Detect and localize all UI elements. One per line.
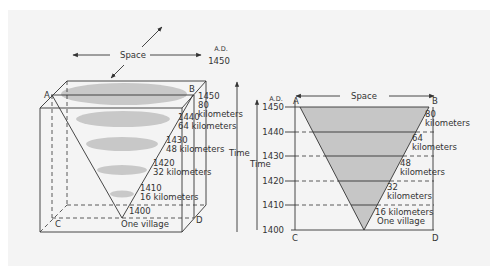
corner-a: A <box>44 90 50 100</box>
distance-48: 48 kilometers <box>166 144 225 154</box>
corner-c: C <box>55 219 61 229</box>
distance-64: 64 kilometers <box>178 121 237 131</box>
ring-1420 <box>97 165 147 175</box>
ring-1430 <box>86 137 158 151</box>
one-village-label: One village <box>377 216 425 226</box>
corner-c: C <box>292 233 298 243</box>
year-1410: 1410 <box>262 200 284 210</box>
one-village-label: One village <box>121 219 169 229</box>
year-1420: 1420 <box>262 176 284 186</box>
era-label: A.D. <box>214 45 227 53</box>
left-3d-diagram: Space A.D. 1450 A B C D <box>40 27 250 232</box>
distance-32-unit: kilometers <box>387 191 432 201</box>
ring-1440 <box>76 111 170 127</box>
ring-1410 <box>110 191 134 198</box>
year-1400: 1400 <box>129 206 151 216</box>
year-1400: 1400 <box>262 225 284 235</box>
distance-48-unit: kilometers <box>400 167 445 177</box>
time-label: Time <box>228 148 250 158</box>
top-year-label: 1450 <box>208 56 230 66</box>
corner-b: B <box>189 84 195 94</box>
distance-16: 16 kilometers <box>140 192 199 202</box>
year-1450: 1450 <box>262 102 284 112</box>
corner-b: B <box>432 96 438 106</box>
corner-d: D <box>432 233 439 243</box>
ring-1450 <box>61 83 187 105</box>
corner-a: A <box>293 96 299 106</box>
diffusion-diagram: Space A.D. 1450 A B C D <box>0 0 498 273</box>
space-arrow-back <box>142 27 162 47</box>
distance-80-unit: kilometers <box>425 118 470 128</box>
time-label: Time <box>249 159 271 169</box>
box-bottom-left <box>40 205 67 232</box>
distance-64-unit: kilometers <box>412 142 457 152</box>
space-label: Space <box>351 91 377 101</box>
space-label: Space <box>120 50 146 60</box>
corner-d: D <box>196 215 203 225</box>
distance-32: 32 kilometers <box>153 167 212 177</box>
space-arrow-front <box>111 65 124 78</box>
right-section-diagram: Space A B C D A.D. 1450 1440 <box>249 91 470 243</box>
year-1440: 1440 <box>262 127 284 137</box>
